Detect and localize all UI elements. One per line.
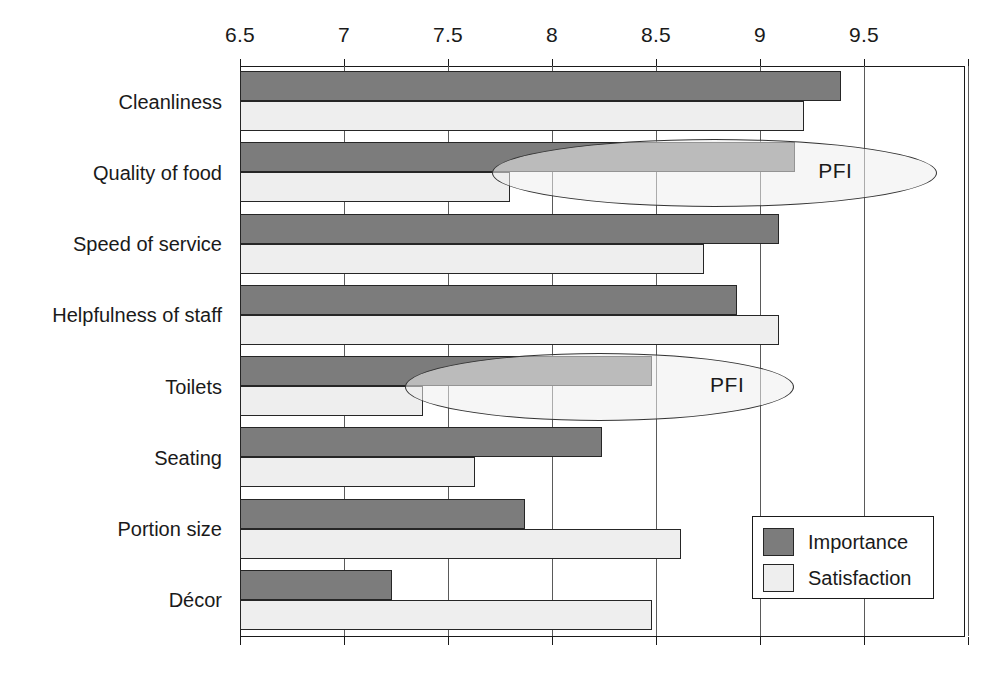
legend: ImportanceSatisfaction bbox=[752, 516, 934, 599]
bar-satisfaction bbox=[240, 386, 423, 416]
x-tick-mark-bottom bbox=[968, 637, 969, 645]
x-tick-label: 9.5 bbox=[849, 22, 879, 48]
x-tick-mark-bottom bbox=[552, 637, 553, 645]
priority-for-improvement-chart: CleanlinessQuality of foodSpeed of servi… bbox=[0, 0, 999, 685]
x-tick-mark-bottom bbox=[240, 637, 241, 645]
bar-importance bbox=[240, 285, 737, 315]
category-label: Cleanliness bbox=[119, 90, 222, 114]
bar-importance bbox=[240, 214, 779, 244]
legend-label: Satisfaction bbox=[808, 566, 911, 590]
bar-satisfaction bbox=[240, 101, 804, 131]
category-label: Décor bbox=[169, 588, 222, 612]
x-tick-label: 9 bbox=[754, 22, 766, 48]
bar-satisfaction bbox=[240, 172, 510, 202]
legend-label: Importance bbox=[808, 530, 908, 554]
bar-importance bbox=[240, 570, 392, 600]
category-label: Quality of food bbox=[93, 161, 222, 185]
x-tick-label: 8.5 bbox=[641, 22, 671, 48]
legend-swatch-importance bbox=[763, 528, 794, 556]
bar-satisfaction bbox=[240, 600, 652, 630]
x-tick-mark-bottom bbox=[760, 637, 761, 645]
bar-importance bbox=[240, 427, 602, 457]
bar-importance bbox=[240, 499, 525, 529]
x-tick-mark-bottom bbox=[864, 637, 865, 645]
category-label: Seating bbox=[154, 446, 222, 470]
category-label: Portion size bbox=[118, 517, 223, 541]
category-label: Toilets bbox=[165, 375, 222, 399]
gridline bbox=[968, 66, 969, 636]
bar-importance bbox=[240, 71, 841, 101]
bar-satisfaction bbox=[240, 529, 681, 559]
legend-item: Importance bbox=[763, 528, 908, 556]
category-label: Speed of service bbox=[73, 232, 222, 256]
x-tick-label: 6.5 bbox=[225, 22, 255, 48]
x-tick-label: 7 bbox=[338, 22, 350, 48]
bar-satisfaction bbox=[240, 315, 779, 345]
x-tick-mark-bottom bbox=[656, 637, 657, 645]
x-tick-mark-bottom bbox=[344, 637, 345, 645]
category-label: Helpfulness of staff bbox=[52, 303, 222, 327]
category-axis: CleanlinessQuality of foodSpeed of servi… bbox=[0, 0, 222, 685]
bar-satisfaction bbox=[240, 244, 704, 274]
legend-swatch-satisfaction bbox=[763, 564, 794, 592]
pfi-label: PFI bbox=[710, 373, 744, 397]
bar-importance bbox=[240, 356, 652, 386]
pfi-label: PFI bbox=[818, 159, 852, 183]
x-tick-label: 7.5 bbox=[433, 22, 463, 48]
plot-border-bottom bbox=[240, 636, 965, 637]
x-tick-mark-bottom bbox=[448, 637, 449, 645]
x-tick-label: 8 bbox=[546, 22, 558, 48]
bar-satisfaction bbox=[240, 457, 475, 487]
bar-importance bbox=[240, 142, 795, 172]
legend-item: Satisfaction bbox=[763, 564, 911, 592]
